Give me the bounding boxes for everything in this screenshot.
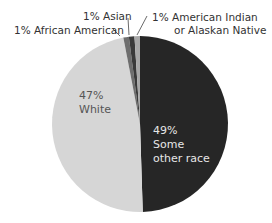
- label-white-percent: 47%: [79, 89, 103, 102]
- label-other-line2: other race: [153, 152, 210, 165]
- label-white-name: White: [79, 103, 111, 116]
- pie-slices: [52, 36, 228, 212]
- label-asian: 1% Asian: [83, 10, 132, 22]
- label-african-american: 1% African American: [14, 24, 124, 36]
- label-other-percent: 49%: [153, 124, 177, 137]
- label-other-line1: Some: [153, 138, 184, 151]
- label-american-indian-line2: or Alaskan Native: [174, 24, 266, 36]
- leader-line-american-indian: [137, 16, 147, 35]
- label-american-indian-line1: 1% American Indian: [152, 11, 258, 23]
